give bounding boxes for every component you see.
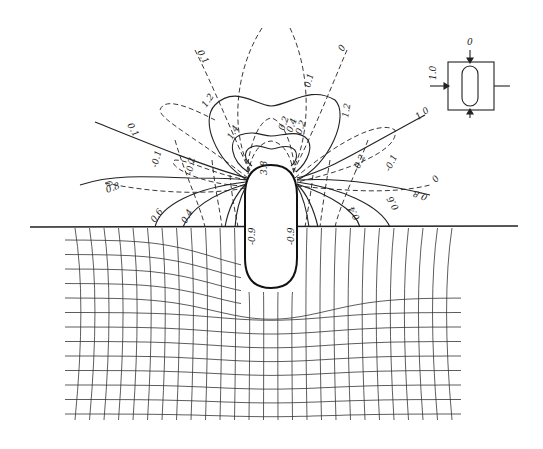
label-tip-3-8: 3.8 (259, 160, 269, 175)
inset-left-label: 1.0 (428, 65, 438, 80)
label-right-1-0: 1.0 (413, 105, 431, 122)
label-left-0-4: 0.4 (179, 207, 195, 225)
label-right-0-6: 0.6 (385, 194, 401, 212)
label-left-0-6: 0.6 (148, 206, 165, 224)
label-right-0-4: 0.4 (346, 204, 362, 222)
label-inner-1-4: 1.4 (225, 123, 241, 141)
load-inset: 0 1.0 (428, 37, 510, 118)
label-left-neg-0-1: -0.1 (149, 149, 163, 168)
label-right-0-8: 0.8 (412, 188, 429, 202)
label-right-neg-0-2: -0.2 (351, 153, 368, 173)
label-left-0-1: 0.1 (125, 121, 141, 138)
label-right-neg-0-1: -0.1 (383, 153, 399, 173)
label-right-0: 0 (430, 173, 442, 184)
label-top-left: 0.1 (195, 48, 211, 65)
label-right-1-2: 1.2 (340, 102, 352, 118)
label-side-left-neg-0-9: -0.9 (247, 227, 257, 245)
notch-outline (245, 165, 297, 288)
label-side-right-neg-0-9: -0.9 (286, 227, 296, 245)
stress-contour-figure: 0.1 0.1 0 1.2 1.2 1.4 0.2 0.4 0.2 0.1 -0… (0, 0, 543, 449)
label-left-neg-0-2: -0.2 (184, 156, 197, 175)
inset-top-label: 0 (467, 37, 473, 47)
